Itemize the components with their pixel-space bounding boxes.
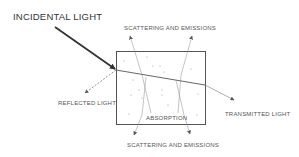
absorption-label: ABSORPTION bbox=[146, 115, 187, 121]
scattering-top-label: SCATTERING AND EMISSIONS bbox=[124, 25, 216, 31]
transmitted-light-label: TRANSMITTED LIGHT bbox=[225, 111, 290, 117]
reflected-light-arrow bbox=[85, 70, 116, 93]
particles bbox=[123, 56, 198, 115]
diagram-graphics bbox=[0, 0, 299, 157]
incident-light-arrow bbox=[55, 27, 115, 69]
scatter-line-top-right bbox=[178, 36, 192, 113]
scattering-bottom-label: SCATTERING AND EMISSIONS bbox=[127, 142, 219, 148]
light-interaction-diagram: INCIDENTAL LIGHT SCATTERING AND EMISSION… bbox=[0, 0, 299, 157]
reflected-light-label: REFLECTED LIGHT bbox=[58, 100, 116, 106]
scatter-line-bottom-left bbox=[134, 77, 146, 135]
scatter-line-bottom-right bbox=[176, 80, 190, 134]
medium-box bbox=[117, 52, 206, 125]
incident-light-label: INCIDENTAL LIGHT bbox=[13, 11, 102, 22]
refracted-path bbox=[116, 70, 205, 85]
transmitted-light-arrow bbox=[205, 85, 234, 100]
